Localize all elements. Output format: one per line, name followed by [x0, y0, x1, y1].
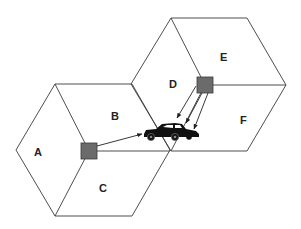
signal-arrow-left-bs — [97, 134, 142, 146]
sector-label-d: D — [169, 78, 177, 90]
signal-arrow-right-bs-3 — [194, 93, 208, 129]
base-station-right — [197, 77, 213, 93]
left-divider-top — [55, 84, 89, 151]
sector-label-c: C — [99, 182, 107, 194]
base-station-left — [81, 143, 97, 159]
left-divider-bottom — [55, 151, 89, 216]
sector-diagram: A B C D E F — [0, 0, 301, 229]
sector-label-b: B — [111, 110, 119, 122]
sector-label-a: A — [34, 146, 42, 158]
right-divider-top — [171, 18, 205, 85]
sector-label-f: F — [240, 114, 247, 126]
sector-label-e: E — [220, 51, 227, 63]
right-divider-bottom — [171, 85, 205, 151]
signal-arrow-right-bs-2 — [186, 93, 202, 123]
car-icon — [144, 123, 199, 141]
signal-arrow-right-bs-1 — [177, 86, 196, 118]
